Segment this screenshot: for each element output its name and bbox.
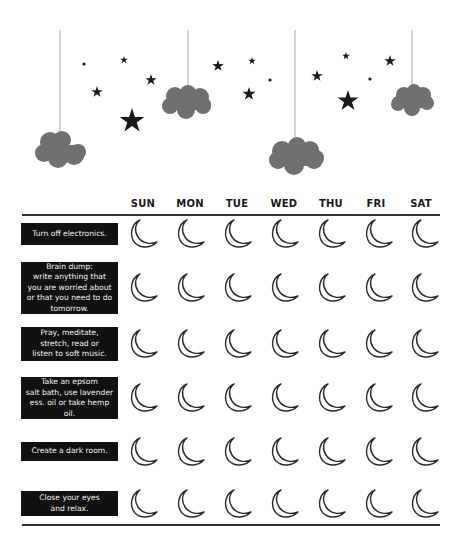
moon-icon[interactable] xyxy=(126,217,160,251)
moon-icon[interactable] xyxy=(267,217,301,251)
moon-icon[interactable] xyxy=(267,381,301,415)
moon-icon[interactable] xyxy=(361,487,395,521)
cloud-icon xyxy=(162,85,211,119)
day-header-mon: MON xyxy=(167,198,213,209)
moon-icon[interactable] xyxy=(126,271,160,305)
star-icon xyxy=(145,74,156,85)
moon-icon[interactable] xyxy=(407,217,441,251)
moon-icon[interactable] xyxy=(126,435,160,469)
moon-icon[interactable] xyxy=(173,271,207,305)
day-header-thu: THU xyxy=(308,198,354,209)
star-icon xyxy=(311,70,322,81)
hanging-clouds-and-stars-illustration xyxy=(0,0,463,190)
star-icon xyxy=(342,52,350,59)
habit-label-text: Take an epsomsalt bath, use lavenderess.… xyxy=(25,377,114,419)
day-header-wed: WED xyxy=(261,198,307,209)
moon-icon[interactable] xyxy=(220,327,254,361)
habit-label-text: Brain dump:write anything thatyou are wo… xyxy=(27,262,112,315)
day-header-fri: FRI xyxy=(353,198,399,209)
moon-icon[interactable] xyxy=(173,327,207,361)
moon-icon[interactable] xyxy=(173,381,207,415)
moon-icon[interactable] xyxy=(267,435,301,469)
habit-label: Take an epsomsalt bath, use lavenderess.… xyxy=(21,377,118,419)
star-icon xyxy=(91,86,102,97)
moon-icon[interactable] xyxy=(126,327,160,361)
moon-icon[interactable] xyxy=(126,487,160,521)
moon-icon[interactable] xyxy=(220,271,254,305)
moon-icon[interactable] xyxy=(361,327,395,361)
habit-label: Brain dump:write anything thatyou are wo… xyxy=(21,262,118,314)
habit-label-text: Close your eyesand relax. xyxy=(39,493,99,514)
day-header-tue: TUE xyxy=(214,198,260,209)
star-icon xyxy=(242,87,255,100)
moon-icon[interactable] xyxy=(173,435,207,469)
moon-icon[interactable] xyxy=(220,487,254,521)
moon-icon[interactable] xyxy=(314,217,348,251)
moon-icon[interactable] xyxy=(267,327,301,361)
footer-divider xyxy=(22,524,440,526)
star-icon xyxy=(384,55,395,66)
habit-label-text: Turn off electronics. xyxy=(32,229,106,240)
dot-icon xyxy=(82,62,85,65)
moon-icon[interactable] xyxy=(361,435,395,469)
moon-icon[interactable] xyxy=(314,271,348,305)
habit-label: Create a dark room. xyxy=(21,442,118,461)
moon-icon[interactable] xyxy=(407,435,441,469)
moon-icon[interactable] xyxy=(173,217,207,251)
moon-icon[interactable] xyxy=(267,487,301,521)
cloud-icon xyxy=(35,131,86,168)
moon-icon[interactable] xyxy=(407,487,441,521)
moon-icon[interactable] xyxy=(314,327,348,361)
cloud-icon xyxy=(391,84,434,116)
dot-icon xyxy=(268,78,271,81)
habit-label-text: Create a dark room. xyxy=(31,446,107,457)
moon-icon[interactable] xyxy=(407,381,441,415)
moon-icon[interactable] xyxy=(267,271,301,305)
moon-icon[interactable] xyxy=(314,435,348,469)
header-divider xyxy=(22,214,440,216)
day-header-sat: SAT xyxy=(398,198,444,209)
moon-icon[interactable] xyxy=(361,271,395,305)
hanging-strings xyxy=(60,30,412,142)
moon-icon[interactable] xyxy=(361,381,395,415)
dot-icon xyxy=(368,77,371,80)
star-icon xyxy=(248,57,256,64)
cloud-icon xyxy=(269,137,324,175)
moon-icon[interactable] xyxy=(173,487,207,521)
moon-icon[interactable] xyxy=(361,217,395,251)
moon-icon[interactable] xyxy=(314,381,348,415)
moon-icon[interactable] xyxy=(126,381,160,415)
day-header-row: SUN MON TUE WED THU FRI SAT xyxy=(0,198,463,214)
moon-icon[interactable] xyxy=(407,271,441,305)
moon-icon[interactable] xyxy=(407,327,441,361)
star-icon xyxy=(120,56,128,63)
habit-label: Turn off electronics. xyxy=(21,223,118,245)
moon-icon[interactable] xyxy=(220,217,254,251)
star-icon xyxy=(338,90,359,110)
habit-label: Close your eyesand relax. xyxy=(21,491,118,516)
moon-icon[interactable] xyxy=(314,487,348,521)
moon-icon[interactable] xyxy=(220,381,254,415)
day-header-sun: SUN xyxy=(120,198,166,209)
moon-icon[interactable] xyxy=(220,435,254,469)
habit-label-text: Pray, meditate,stretch, read orlisten to… xyxy=(32,328,107,360)
habit-label: Pray, meditate,stretch, read orlisten to… xyxy=(21,327,118,361)
star-icon xyxy=(120,108,145,132)
